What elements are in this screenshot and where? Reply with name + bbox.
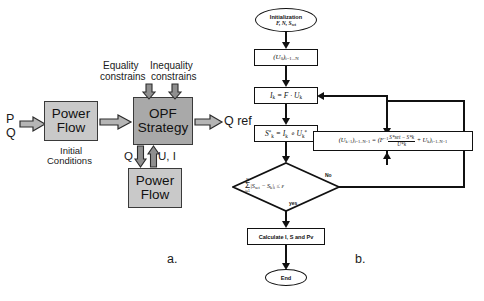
flow-end-text: End xyxy=(281,275,292,281)
arrowhead-yes-to-calculate xyxy=(282,221,290,228)
panel-b-label: b. xyxy=(355,252,365,266)
u0-tail-sub: i=1...N xyxy=(285,57,298,62)
connector-calculate-to-end xyxy=(285,245,287,265)
input-label-p: P xyxy=(6,112,14,126)
arrow-opf-to-powerflow-bottom xyxy=(134,146,147,168)
arrow-powerflow-to-opf xyxy=(100,114,132,130)
sk-sup2: * xyxy=(304,129,307,135)
output-label-qref: Q ref xyxy=(224,114,252,128)
decision-compare: ≤ ε xyxy=(275,182,284,189)
flow-step-current-expression: Ik = F · Uk xyxy=(270,91,302,100)
flow-start-line2-text: F, N, S xyxy=(276,20,292,26)
block-opf-strategy: OPF Strategy xyxy=(133,97,193,145)
block-power-flow-top-line2: Flow xyxy=(52,121,90,135)
u0-main: (U xyxy=(273,53,280,61)
block-power-flow-top-line1: Power xyxy=(52,107,90,121)
inequality-constraint-line1: Inequality xyxy=(150,60,193,71)
block-power-flow-top: Power Flow xyxy=(44,101,98,141)
block-power-flow-bottom-line1: Power xyxy=(136,174,174,188)
input-label-q: Q xyxy=(6,126,16,140)
panel-a-label: a. xyxy=(167,252,177,266)
ik-sub2: k xyxy=(299,94,302,100)
arrowhead-loop-into-ik xyxy=(317,92,324,100)
initial-conditions-line2: Conditions xyxy=(47,155,92,166)
connector-no-down-to-update xyxy=(386,100,388,131)
decision-no-label: No xyxy=(325,172,332,178)
flow-start-line2: F, N, Sset xyxy=(270,20,302,27)
flow-step-power-expression: S*k = Ik ∘ Uk* xyxy=(265,129,307,139)
update-rhs-range: i=1..N−1 xyxy=(432,140,448,145)
flow-step-current: Ik = F · Uk xyxy=(254,87,318,104)
arrowhead-ik-to-sk xyxy=(282,118,290,125)
flow-step-power: S*k = Ik ∘ Uk* xyxy=(254,125,318,142)
arrow-inequality-into-opf xyxy=(168,84,182,100)
flow-step-calculate-text: Calculate I, S and Pv xyxy=(259,234,314,240)
sk-eq: = I xyxy=(274,129,285,138)
flow-step-u0: (U0)i=1...N xyxy=(254,49,318,66)
decision-minus: − S xyxy=(260,182,270,189)
block-opf-strategy-line2: Strategy xyxy=(138,121,188,135)
arrow-input-to-powerflow xyxy=(20,116,46,132)
update-eq: = (F xyxy=(370,136,384,143)
flow-step-calculate: Calculate I, S and Pv xyxy=(247,228,325,245)
equality-constraint-line1: Equality xyxy=(103,60,139,71)
summation-lower-limit: i=1 xyxy=(245,190,250,193)
decision-yes-label: yes xyxy=(289,200,297,206)
arrow-equality-into-opf xyxy=(142,84,156,100)
connector-decision-no-horizontal xyxy=(339,186,465,188)
block-power-flow-bottom: Power Flow xyxy=(128,168,182,208)
connector-no-top-horizontal xyxy=(386,100,465,102)
flow-end-node: End xyxy=(265,269,307,286)
flow-step-update-expression: (Uk+1)i=1..N−1 = (F−1S*set − S*kU*k + Uk… xyxy=(339,135,448,147)
flow-start-node: Initialization F, N, Sset xyxy=(255,8,317,32)
equality-constraint-line2: constrains xyxy=(100,71,146,82)
decision-body: |Sset − Sk|i ≤ ε xyxy=(250,182,284,189)
update-lhs-range: i=1..N−1 xyxy=(354,140,370,145)
inequality-constraint-line2: constrains xyxy=(151,71,197,82)
arrowhead-start-to-u0 xyxy=(282,42,290,49)
update-denominator: U*k xyxy=(388,142,415,147)
arrowhead-u0-to-ik xyxy=(282,80,290,87)
flow-step-u0-expression: (U0)i=1...N xyxy=(273,53,298,61)
feedback-label-ui: U, I xyxy=(158,150,176,162)
arrow-powerflow-bottom-to-opf xyxy=(147,146,160,168)
sk-eq2: ∘ U xyxy=(288,129,302,138)
block-power-flow-bottom-line2: Flow xyxy=(136,188,174,202)
block-opf-strategy-line1: OPF xyxy=(138,107,188,121)
ik-eq: = F · U xyxy=(275,91,299,100)
update-plus: + U xyxy=(415,136,427,143)
arrowhead-update-loop-up xyxy=(383,152,391,159)
flow-start-line2-sub: set xyxy=(292,22,296,26)
update-fraction: S*set − S*kU*k xyxy=(388,135,415,147)
arrow-opf-to-qref xyxy=(195,114,223,130)
flow-step-update: (Uk+1)i=1..N−1 = (F−1S*set − S*kU*k + Uk… xyxy=(313,131,473,151)
feedback-label-q: Q xyxy=(124,150,133,162)
flow-decision-expression: N Σ i=1 |Sset − Sk|i ≤ ε xyxy=(245,179,284,193)
figure-canvas: P Q Power Flow Initial Conditions OPF St… xyxy=(0,0,484,301)
connector-loop-to-ik-horizontal xyxy=(319,95,387,97)
